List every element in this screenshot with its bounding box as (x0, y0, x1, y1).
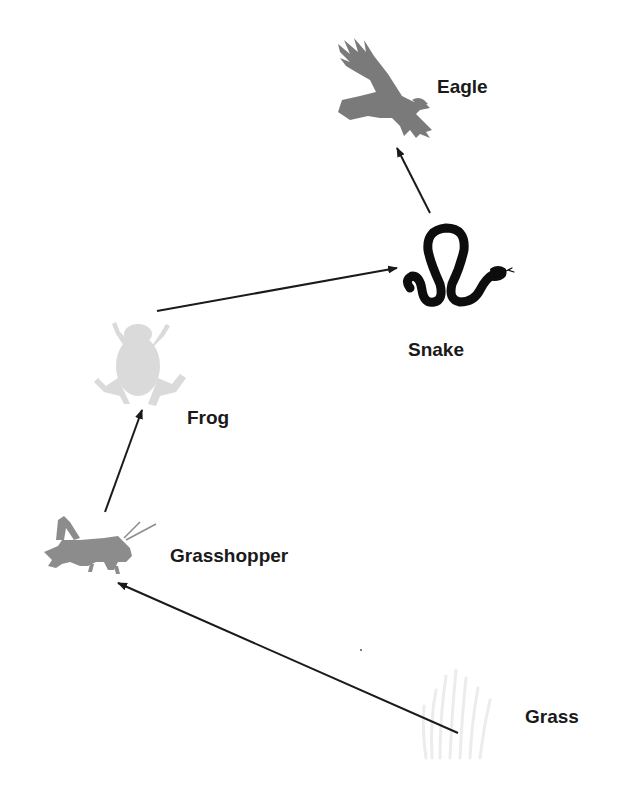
diagram-canvas (0, 0, 636, 803)
eagle-label: Eagle (437, 77, 488, 96)
food-chain-diagram: Eagle Snake Frog Grasshopper Grass (0, 0, 636, 803)
snake-label: Snake (408, 340, 464, 359)
frog-icon (94, 322, 186, 406)
arrows (105, 148, 458, 733)
snake-icon (407, 228, 514, 302)
speck (360, 649, 362, 651)
arrow-grass-to-grasshopper (118, 583, 458, 733)
eagle-icon (338, 38, 432, 138)
arrow-grasshopper-to-frog (105, 410, 142, 512)
grass-label: Grass (525, 707, 579, 726)
arrow-frog-to-snake (157, 268, 397, 311)
grass-icon (423, 670, 490, 758)
grasshopper-icon (44, 516, 156, 574)
grasshopper-label: Grasshopper (170, 546, 288, 565)
arrow-snake-to-eagle (397, 148, 430, 213)
frog-label: Frog (187, 408, 229, 427)
